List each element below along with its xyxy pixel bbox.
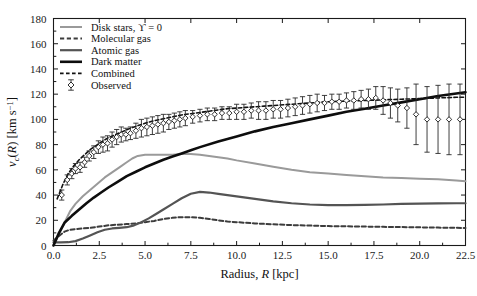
observed-marker-diamond [183,115,188,120]
observed-point [395,89,400,122]
observed-marker-diamond [82,160,87,165]
x-tick-label: 20.0 [410,249,430,261]
observed-marker-diamond [446,117,451,122]
observed-marker-diamond [234,109,239,114]
observed-marker-diamond [329,99,334,104]
legend-label-atomic_gas: Atomic gas [91,45,139,56]
legend-label-dark_matter: Dark matter [91,56,142,67]
observed-point [183,111,188,126]
observed-point [190,111,195,124]
observed-point [300,97,305,115]
legend-label-combined: Combined [91,68,135,79]
observed-marker-diamond [65,177,70,182]
observed-marker-diamond [314,100,319,105]
chart-canvas: 0.02.55.07.510.012.515.017.520.022.50204… [0,0,477,296]
observed-marker-diamond [344,98,349,103]
observed-point [197,109,202,122]
x-tick-label: 7.5 [184,249,198,261]
y-tick-label: 100 [30,113,47,125]
x-tick-label: 5.0 [138,249,152,261]
observed-point [293,98,298,116]
y-tick-label: 140 [30,63,47,75]
observed-marker-diamond [278,107,283,112]
observed-point [307,95,312,113]
observed-marker-diamond [190,114,195,119]
observed-marker-diamond [249,108,254,113]
observed-marker-diamond [212,112,217,117]
observed-point [388,88,393,118]
x-tick-label: 17.5 [364,249,384,261]
observed-point [77,162,82,172]
observed-point [139,119,144,137]
observed-point [144,118,149,136]
series-combined [57,97,465,199]
legend-item-disk_stars[interactable]: Disk stars, ϒ = 0 [60,22,162,33]
y-tick-label: 180 [30,13,47,25]
observed-point [177,112,182,127]
series-dark_matter [54,92,466,245]
observed-point [413,84,418,145]
observed-marker-diamond [172,118,177,123]
legend-label-observed: Observed [91,80,132,91]
observed-marker-diamond [424,117,429,122]
observed-marker-diamond [177,117,182,122]
observed-point [380,87,385,115]
observed-point [109,132,114,147]
observed-marker-diamond [161,120,166,125]
observed-marker-diamond [91,149,96,154]
x-axis-title: Radius, R [kpc] [220,267,298,281]
y-tick-label: 40 [36,189,48,201]
x-tick-label: 12.5 [273,249,293,261]
observed-point [150,117,155,135]
observed-marker-diamond [263,108,268,113]
observed-point [65,175,70,185]
series-atomic_gas [54,192,466,242]
legend-item-atomic_gas[interactable]: Atomic gas [60,45,139,56]
observed-point [314,94,319,112]
observed-marker-diamond [150,123,155,128]
legend-item-combined[interactable]: Combined [60,68,135,79]
observed-marker-diamond [271,107,276,112]
observed-marker-diamond [380,98,385,103]
observed-marker-diamond [435,117,440,122]
y-tick-label: 0 [41,240,47,252]
x-tick-label: 10.0 [227,249,247,261]
observed-point [329,94,334,109]
observed-point [366,89,371,109]
observed-marker-diamond [404,105,409,110]
observed-point [404,88,409,128]
observed-point [161,114,166,132]
legend-label-disk_stars: Disk stars, ϒ = 0 [91,22,162,33]
observed-point [285,99,290,117]
observed-marker-diamond [227,110,232,115]
observed-point [457,84,462,155]
observed-point [336,94,341,109]
observed-point [351,92,356,110]
observed-point [278,100,283,118]
legend: Disk stars, ϒ = 0Molecular gasAtomic gas… [60,22,162,91]
observed-marker-diamond [285,105,290,110]
observed-marker-diamond [87,153,92,158]
observed-point [358,90,363,108]
legend-item-observed[interactable]: Observed [68,80,132,91]
legend-marker-diamond [68,82,74,88]
x-tick-label: 15.0 [319,249,339,261]
observed-point [234,104,239,119]
observed-point [271,100,276,118]
y-axis-title: vc(R) [km s−1] [5,97,21,167]
observed-point [105,136,110,151]
legend-label-molecular_gas: Molecular gas [91,33,151,44]
observed-point [322,95,327,110]
observed-marker-diamond [155,122,160,127]
observed-marker-diamond [166,119,171,124]
x-tick-label: 2.5 [92,249,106,261]
y-tick-label: 20 [36,214,48,226]
observed-marker-diamond [457,117,462,122]
legend-item-molecular_gas[interactable]: Molecular gas [60,33,151,44]
observed-point [256,102,261,120]
observed-point [114,129,119,144]
observed-marker-diamond [336,99,341,104]
legend-item-dark_matter[interactable]: Dark matter [60,56,142,67]
observed-marker-diamond [351,98,356,103]
x-tick-label: 22.5 [456,249,476,261]
